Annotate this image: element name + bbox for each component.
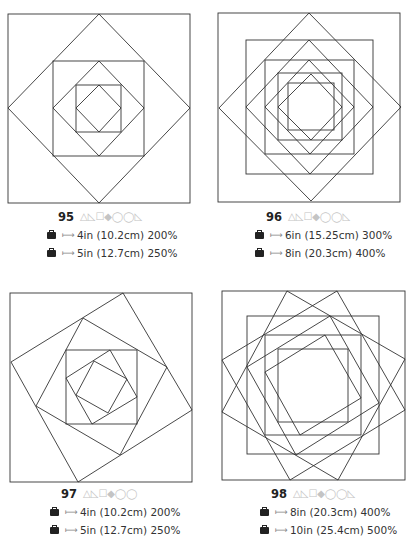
pattern-97-caption: 97 △◺☐◆◯◯ ⟼ 4in (10.2cm) 200% ⟼ 5in (12.… bbox=[50, 485, 180, 539]
pattern-number: 96 bbox=[266, 208, 282, 226]
pattern-95-diagram bbox=[8, 14, 190, 203]
size-text: 5in (12.7cm) 250% bbox=[80, 521, 181, 539]
size-arrow-icon: ⟼ bbox=[270, 244, 283, 262]
quilt-block-diagrams bbox=[0, 0, 410, 546]
technique-icons: △◺☐◆◯◯◺ bbox=[80, 208, 142, 226]
technique-icons: △◺☐◆◯◯ bbox=[83, 485, 137, 503]
size-text: 10in (25.4cm) 500% bbox=[290, 521, 397, 539]
size-arrow-icon: ⟼ bbox=[270, 226, 283, 244]
size-arrow-icon: ⟼ bbox=[65, 521, 78, 539]
printer-icon bbox=[47, 232, 56, 239]
pattern-98-diagram bbox=[222, 291, 405, 480]
technique-icons: △◺☐◆◯◯◺ bbox=[293, 485, 355, 503]
printer-icon bbox=[260, 527, 269, 534]
size-arrow-icon: ⟼ bbox=[275, 521, 288, 539]
pattern-97-diagram bbox=[10, 293, 192, 482]
pattern-95-caption: 95 △◺☐◆◯◯◺ ⟼ 4in (10.2cm) 200% ⟼ 5in (12… bbox=[47, 208, 177, 262]
printer-icon bbox=[255, 250, 264, 257]
size-arrow-icon: ⟼ bbox=[62, 226, 75, 244]
pattern-number: 98 bbox=[271, 485, 287, 503]
printer-icon bbox=[260, 509, 269, 516]
size-arrow-icon: ⟼ bbox=[275, 503, 288, 521]
size-text: 8in (20.3cm) 400% bbox=[285, 244, 386, 262]
pattern-number: 95 bbox=[58, 208, 74, 226]
size-text: 5in (12.7cm) 250% bbox=[77, 244, 178, 262]
size-arrow-icon: ⟼ bbox=[62, 244, 75, 262]
printer-icon bbox=[47, 250, 56, 257]
size-arrow-icon: ⟼ bbox=[65, 503, 78, 521]
pattern-98-caption: 98 △◺☐◆◯◯◺ ⟼ 8in (20.3cm) 400% ⟼ 10in (2… bbox=[260, 485, 397, 539]
pattern-96-caption: 96 △◺☐◆◯◯◺ ⟼ 6in (15.25cm) 300% ⟼ 8in (2… bbox=[255, 208, 392, 262]
technique-icons: △◺☐◆◯◯◺ bbox=[288, 208, 350, 226]
printer-icon bbox=[255, 232, 264, 239]
printer-icon bbox=[50, 527, 59, 534]
size-text: 8in (20.3cm) 400% bbox=[290, 503, 391, 521]
size-text: 4in (10.2cm) 200% bbox=[80, 503, 181, 521]
pattern-number: 97 bbox=[61, 485, 77, 503]
size-text: 6in (15.25cm) 300% bbox=[285, 226, 392, 244]
pattern-96-diagram bbox=[218, 13, 401, 202]
size-text: 4in (10.2cm) 200% bbox=[77, 226, 178, 244]
printer-icon bbox=[50, 509, 59, 516]
